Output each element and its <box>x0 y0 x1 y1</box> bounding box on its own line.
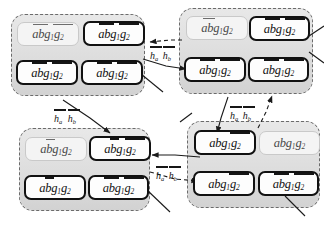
edge-bottomright-to-topright <box>258 96 272 128</box>
cell-bl-2-expr: abg1g2 <box>104 143 136 156</box>
cell-bl-4-expr: abg1g2 <box>103 182 135 195</box>
edge-topright-to-bottomright <box>217 97 228 133</box>
cell-br-1-expr: abg1g2 <box>209 137 241 150</box>
cell-br-4-expr: abg1g2 <box>273 178 305 191</box>
cell-tl-3-expr: abg1g2 <box>31 67 63 80</box>
cell-bl-4[interactable]: abg1g2 <box>88 175 149 200</box>
edge-bottomright-to-bottomleft <box>152 155 200 157</box>
edge-label-middle: ha hb <box>230 110 251 122</box>
stub-topright-out-upper <box>309 26 324 36</box>
cell-tr-2[interactable]: abg1g2 <box>249 16 310 41</box>
cell-tl-3[interactable]: abg1g2 <box>16 60 78 85</box>
cell-tr-3-expr: abg1g2 <box>199 64 231 77</box>
cell-bl-1-expr: abg1g2 <box>40 143 72 156</box>
cell-tl-1-expr: abg1g2 <box>32 28 64 41</box>
cell-br-3-expr: abg1g2 <box>208 178 240 191</box>
cell-bl-3[interactable]: abg1g2 <box>24 175 86 200</box>
cell-tr-4-expr: abg1g2 <box>263 64 295 77</box>
cell-tr-2-expr: abg1g2 <box>264 23 296 36</box>
diagram-canvas: abg1g2 abg1g2 abg1g2 abg1g2 abg1g2 <box>0 0 324 226</box>
cell-bl-3-expr: abg1g2 <box>39 182 71 195</box>
cell-br-1[interactable]: abg1g2 <box>194 130 256 155</box>
cell-br-2-expr: abg1g2 <box>274 137 306 150</box>
cell-br-3[interactable]: abg1g2 <box>193 171 255 196</box>
cell-br-2[interactable]: abg1g2 <box>259 131 320 155</box>
stub-bottomleft-out <box>147 190 170 212</box>
edge-label-left: ha hb <box>54 113 76 125</box>
cell-tl-2[interactable]: abg1g2 <box>83 21 145 46</box>
edge-label-top: ha hb <box>150 50 171 62</box>
cell-tr-4[interactable]: abg1g2 <box>248 57 309 82</box>
stub-bottomright-in <box>180 113 192 122</box>
cell-tl-4[interactable]: abg1g2 <box>81 60 143 85</box>
stub-topleft-out <box>141 74 163 92</box>
cell-tr-3[interactable]: abg1g2 <box>184 57 246 82</box>
cell-bl-1[interactable]: abg1g2 <box>25 137 87 161</box>
cell-tr-1[interactable]: abg1g2 <box>186 16 248 40</box>
cell-tr-1-expr: abg1g2 <box>201 22 233 35</box>
edge-label-bottom: ha hb <box>156 170 177 182</box>
cell-bl-2[interactable]: abg1g2 <box>89 136 151 161</box>
cell-br-4[interactable]: abg1g2 <box>258 171 319 196</box>
cell-tl-4-expr: abg1g2 <box>96 67 128 80</box>
cell-tl-2-expr: abg1g2 <box>98 28 130 41</box>
edge-topright-to-topleft <box>150 40 182 42</box>
stub-bottomright-out <box>285 196 305 216</box>
cell-tl-1[interactable]: abg1g2 <box>17 22 79 46</box>
stub-topright-out-lower <box>309 52 324 63</box>
